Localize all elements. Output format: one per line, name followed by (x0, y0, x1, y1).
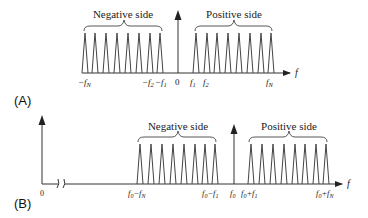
positive-side-brace-a (195, 20, 272, 31)
tick-zero-a: 0 (175, 77, 180, 87)
axis-label-f-b: f (347, 178, 351, 189)
positive-peaks-a (193, 33, 274, 73)
tick-pos-fn: fN (266, 77, 274, 88)
axis-label-f-a: f (295, 67, 299, 78)
panel-a: (A) f Negative side (14, 8, 299, 108)
negative-side-label-a: Negative side (93, 8, 153, 20)
tick-neg-f2: −f2 (142, 77, 155, 88)
tick-f0-minus-fn: f0−fN (128, 188, 146, 199)
tick-neg-fn: −fN (78, 77, 92, 88)
negative-side-brace-b (138, 131, 216, 142)
axis-break-icon (63, 179, 65, 188)
arrow-up-icon (175, 10, 182, 20)
origin-label-b: 0 (40, 189, 44, 198)
panel-a-label: (A) (14, 93, 31, 108)
tick-f0: f0 (230, 188, 235, 199)
positive-side-brace-b (249, 131, 327, 142)
panel-b: (B) 0 f Negative side (14, 115, 351, 211)
negative-side-brace-a (84, 20, 162, 31)
arrow-up-icon (39, 115, 46, 125)
positive-side-label-b: Positive side (261, 120, 317, 132)
spectrum-diagram: (A) f Negative side (0, 0, 368, 218)
tick-pos-f2: f2 (203, 77, 210, 88)
positive-side-label-a: Positive side (206, 8, 262, 20)
negative-side-label-b: Negative side (148, 120, 208, 132)
panel-b-label: (B) (14, 196, 31, 211)
tick-f0-plus-f1: f0+f1 (241, 188, 257, 199)
arrow-up-icon (231, 124, 238, 134)
positive-peaks-b (248, 144, 329, 184)
tick-f0-plus-fn: f0+fN (316, 188, 334, 199)
tick-f0-minus-f1: f0−f1 (202, 188, 218, 199)
tick-pos-f1: f1 (190, 77, 196, 88)
negative-peaks-b (137, 144, 218, 184)
tick-neg-f1: −f1 (155, 77, 167, 88)
negative-peaks-a (82, 33, 163, 73)
